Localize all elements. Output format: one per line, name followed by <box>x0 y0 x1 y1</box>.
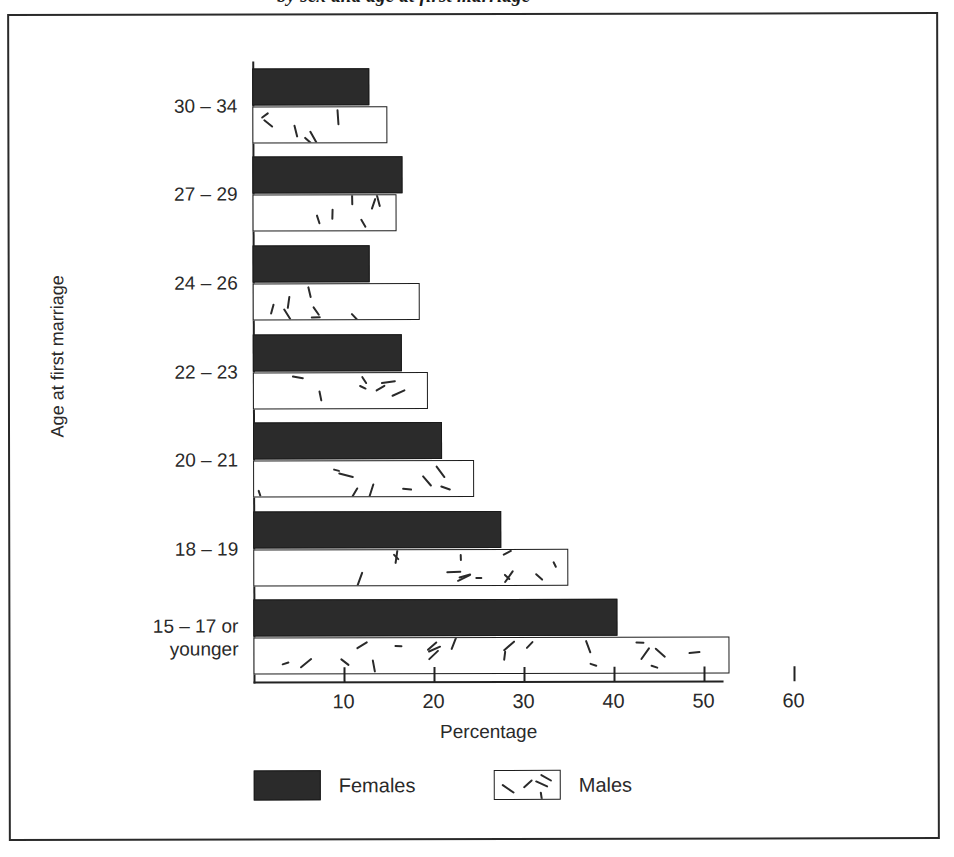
speckle-mark <box>535 573 543 581</box>
x-axis-tick-label: 40 <box>589 690 639 713</box>
speckle-mark <box>261 112 269 119</box>
legend-item-males: Males <box>494 770 632 800</box>
x-axis-tick <box>704 667 706 682</box>
speckle-mark <box>263 119 273 128</box>
bar-female <box>253 511 501 549</box>
legend-swatch-females <box>254 770 321 800</box>
bar-male <box>253 372 428 409</box>
speckle-mark <box>460 554 462 562</box>
speckle-mark <box>362 375 368 383</box>
y-axis-title: Age at first marriage <box>47 236 69 476</box>
speckle-mark <box>300 658 312 668</box>
speckle-mark <box>585 640 591 654</box>
category-axis-labels: 30 – 3427 – 2924 – 2622 – 2320 – 2118 – … <box>129 61 238 681</box>
plot-area <box>252 60 793 681</box>
speckle-mark <box>402 488 412 491</box>
speckle-mark <box>590 663 598 667</box>
x-axis-title: Percentage <box>254 720 724 743</box>
bar-female <box>253 422 442 459</box>
speckle-mark <box>333 468 340 471</box>
speckle-mark <box>436 465 446 478</box>
x-axis-tick-label: 50 <box>679 689 729 712</box>
bar-male <box>253 283 420 320</box>
speckle-mark <box>540 774 552 782</box>
x-axis-tick <box>344 667 346 682</box>
speckle-mark <box>635 641 644 643</box>
speckle-mark <box>338 472 354 478</box>
speckle-mark <box>331 208 333 219</box>
bar-female <box>252 68 369 105</box>
speckle-mark <box>475 577 482 579</box>
category-label: 15 – 17 or younger <box>153 614 239 660</box>
category-label: 24 – 26 <box>174 271 237 294</box>
chart-legend: FemalesMales <box>254 770 674 817</box>
speckle-mark <box>441 485 452 490</box>
speckle-mark <box>501 784 514 794</box>
x-axis-tick-label: 60 <box>769 689 819 712</box>
bar-male <box>253 460 474 497</box>
speckle-mark <box>282 661 290 665</box>
x-axis-ticks: 102030405060 <box>9 14 936 16</box>
x-axis-tick-label: 10 <box>319 690 369 713</box>
speckle-mark <box>312 306 320 316</box>
category-label: 20 – 21 <box>175 449 238 472</box>
bar-female <box>253 245 370 282</box>
x-axis-tick-label: 30 <box>499 690 549 713</box>
speckle-mark <box>284 308 292 320</box>
speckle-mark <box>502 550 511 556</box>
speckle-mark <box>540 791 543 800</box>
speckle-mark <box>375 384 385 391</box>
x-axis-tick <box>434 667 436 682</box>
speckle-mark <box>380 380 395 384</box>
legend-swatch-males <box>494 770 561 800</box>
speckle-mark <box>311 316 321 318</box>
speckle-mark <box>308 286 312 298</box>
speckle-mark <box>319 390 323 401</box>
speckle-mark <box>316 214 320 224</box>
figure-title-remnant: by sex and age at first marriage <box>0 0 954 11</box>
speckle-mark <box>654 648 665 658</box>
speckle-mark <box>522 779 532 788</box>
speckle-mark <box>351 312 359 320</box>
speckle-mark <box>372 659 376 672</box>
speckle-mark <box>356 572 363 586</box>
speckle-mark <box>340 658 350 666</box>
x-axis-tick-label: 20 <box>409 690 459 713</box>
speckle-mark <box>525 641 533 650</box>
speckle-mark <box>304 136 312 143</box>
speckle-mark <box>391 389 405 396</box>
speckle-mark <box>446 570 461 572</box>
x-axis-tick <box>614 667 616 682</box>
speckle-mark <box>292 375 304 378</box>
speckle-mark <box>640 647 650 660</box>
speckle-mark <box>650 664 658 668</box>
bar-female <box>252 156 402 193</box>
speckle-mark <box>356 641 368 649</box>
speckle-mark <box>535 780 548 787</box>
speckle-mark <box>293 124 298 137</box>
speckle-mark <box>352 486 359 497</box>
speckle-mark <box>395 645 403 647</box>
speckle-mark <box>358 385 366 390</box>
speckle-mark <box>503 651 506 661</box>
speckle-mark <box>451 637 458 650</box>
category-label: 18 – 19 <box>175 537 238 560</box>
speckle-mark <box>258 489 262 496</box>
figure-frame: Age at first marriage 30 – 3427 – 2924 –… <box>7 12 940 841</box>
speckle-mark <box>553 561 558 568</box>
category-label: 22 – 23 <box>174 360 237 383</box>
speckle-mark <box>503 570 513 583</box>
speckle-mark <box>375 195 380 208</box>
speckle-mark <box>422 475 432 487</box>
speckle-mark <box>352 195 354 205</box>
bar-male <box>253 637 729 675</box>
legend-item-females: Females <box>254 770 416 800</box>
legend-label: Females <box>339 774 416 797</box>
speckle-mark <box>689 651 702 654</box>
bar-male <box>253 195 397 232</box>
x-axis-tick <box>794 666 796 681</box>
speckle-mark <box>287 296 290 309</box>
bar-male <box>253 548 568 586</box>
category-label: 27 – 29 <box>174 183 237 206</box>
speckle-mark <box>270 304 274 315</box>
